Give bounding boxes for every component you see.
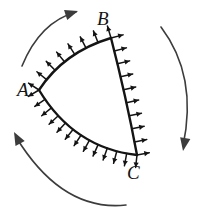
- vertex-label-b: B: [97, 9, 109, 28]
- rotation-arc: [16, 137, 126, 206]
- triangle-edge: [111, 38, 137, 155]
- figure-canvas: A B C: [0, 0, 213, 216]
- normal-arrow-head: [127, 73, 132, 78]
- rotation-arc-arrowhead: [64, 10, 78, 20]
- triangle-edges-group: [39, 38, 137, 155]
- normal-arrow-head: [141, 138, 146, 143]
- normal-arrow-head: [144, 151, 149, 156]
- rotation-arcs-group: [14, 10, 190, 206]
- rotation-arc: [161, 27, 187, 146]
- normal-arrow-head: [139, 125, 144, 130]
- normal-arrow-head: [124, 60, 129, 65]
- normal-arrow-head: [133, 99, 138, 104]
- rotation-arc-arrowhead: [14, 132, 25, 146]
- rotation-arc-arrowhead: [180, 137, 190, 151]
- diagram-svg: [0, 0, 213, 216]
- normal-arrow-head: [130, 86, 135, 91]
- vertex-label-a: A: [17, 80, 29, 99]
- normal-arrow-head: [136, 112, 141, 117]
- vertex-label-c: C: [127, 163, 140, 182]
